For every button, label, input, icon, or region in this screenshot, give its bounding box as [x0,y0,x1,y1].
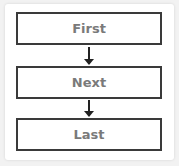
down-arrow-icon [88,47,90,64]
step-first: First [16,12,162,45]
step-last: Last [16,118,162,151]
down-arrow-icon [88,100,90,116]
step-next: Next [16,66,162,99]
